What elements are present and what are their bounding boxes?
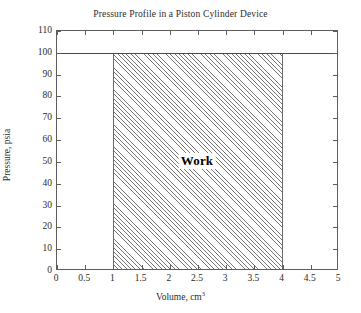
y-axis-tick-label: 60 (43, 134, 53, 144)
y-axis-tick-label: 50 (43, 156, 53, 166)
x-axis-tick (198, 31, 199, 35)
x-axis-tick (283, 265, 284, 269)
work-annotation-label: Work (179, 153, 216, 169)
x-axis-tick (85, 265, 86, 269)
y-axis-tick (333, 162, 337, 163)
x-axis-title: Volume, cm3 (0, 292, 361, 302)
x-axis-tick (142, 31, 143, 35)
x-axis-tick-label: 5 (336, 273, 341, 283)
y-axis-title: Pressure, psia (2, 129, 12, 181)
y-axis-tick (57, 31, 61, 32)
y-axis-tick (333, 140, 337, 141)
x-axis-tick (226, 265, 227, 269)
y-axis-tick (333, 249, 337, 250)
y-axis-tick (57, 53, 61, 54)
x-axis-tick-label: 0.5 (78, 273, 90, 283)
y-axis-tick (57, 206, 61, 207)
y-axis-tick (333, 227, 337, 228)
y-axis-tick-label: 70 (43, 112, 53, 122)
y-axis-tick (57, 96, 61, 97)
x-axis-tick-label: 1 (110, 273, 115, 283)
plot-inner (57, 31, 337, 269)
x-axis-tick-label: 2.5 (191, 273, 203, 283)
y-axis-tick (57, 118, 61, 119)
plot-area (56, 30, 338, 270)
y-axis-tick-label: 0 (47, 265, 52, 275)
y-axis-tick (333, 96, 337, 97)
y-axis-tick-label: 90 (43, 69, 53, 79)
x-axis-tick (85, 31, 86, 35)
x-axis-tick (283, 31, 284, 35)
x-axis-title-text: Volume, cm (156, 292, 202, 302)
y-axis-tick-label: 40 (43, 178, 53, 188)
y-axis-tick-label: 80 (43, 90, 53, 100)
x-axis-tick-label: 3 (223, 273, 228, 283)
x-axis-tick-label: 1.5 (135, 273, 147, 283)
y-axis-tick-label: 20 (43, 221, 53, 231)
y-axis-tick-label: 110 (38, 25, 52, 35)
x-axis-tick (254, 31, 255, 35)
y-axis-tick-label: 10 (43, 243, 53, 253)
y-axis-tick-label: 30 (43, 200, 53, 210)
y-axis-tick (333, 75, 337, 76)
x-axis-title-superscript: 3 (202, 290, 205, 297)
x-axis-tick (198, 265, 199, 269)
chart-title: Pressure Profile in a Piston Cylinder De… (0, 9, 361, 19)
x-axis-tick (311, 31, 312, 35)
x-axis-tick (311, 265, 312, 269)
y-axis-tick (57, 184, 61, 185)
x-axis-tick-label: 3.5 (247, 273, 259, 283)
x-axis-tick-label: 0 (54, 273, 59, 283)
constant-pressure-line (57, 53, 337, 54)
y-axis-tick (333, 31, 337, 32)
y-axis-tick (57, 162, 61, 163)
y-axis-tick (333, 184, 337, 185)
y-axis-tick (333, 118, 337, 119)
x-axis-tick-label: 4 (279, 273, 284, 283)
x-axis-tick (170, 31, 171, 35)
x-axis-tick (113, 265, 114, 269)
x-axis-tick-label: 4.5 (304, 273, 316, 283)
y-axis-tick (333, 206, 337, 207)
y-axis-tick (333, 53, 337, 54)
x-axis-tick (226, 31, 227, 35)
x-axis-tick-label: 2 (166, 273, 171, 283)
x-axis-tick (57, 265, 58, 269)
x-axis-tick (113, 31, 114, 35)
y-axis-tick (57, 249, 61, 250)
y-axis-tick-label: 100 (38, 47, 52, 57)
chart-figure: Pressure Profile in a Piston Cylinder De… (0, 0, 361, 313)
x-axis-tick (142, 265, 143, 269)
y-axis-tick (57, 140, 61, 141)
y-axis-tick (57, 227, 61, 228)
x-axis-tick (170, 265, 171, 269)
x-axis-tick (254, 265, 255, 269)
y-axis-tick (57, 75, 61, 76)
